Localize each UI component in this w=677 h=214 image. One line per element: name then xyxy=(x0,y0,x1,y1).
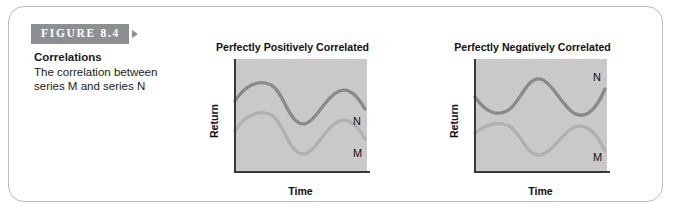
plot-background-positive xyxy=(235,59,367,173)
chart-title-positive: Perfectly Positively Correlated xyxy=(205,41,380,53)
chart-title-negative: Perfectly Negatively Correlated xyxy=(445,41,620,53)
x-axis-label-negative: Time xyxy=(473,185,608,197)
plot-svg-negative: N M xyxy=(473,59,613,181)
figure-banner-body: FIGURE 8.4 xyxy=(31,24,129,44)
figure-caption: Correlations The correlation between ser… xyxy=(34,50,184,93)
plot-area-negative: N M xyxy=(473,59,613,181)
caption-title: Correlations xyxy=(34,50,184,64)
series-tag-n-negative: N xyxy=(593,71,601,83)
plot-svg-positive: N M xyxy=(233,59,373,181)
caption-body: The correlation between series M and ser… xyxy=(34,65,184,93)
series-tag-n-positive: N xyxy=(353,115,361,127)
figure-number-label: FIGURE 8.4 xyxy=(41,28,120,40)
x-axis-label-positive: Time xyxy=(233,185,368,197)
chart-panel-negatively-correlated: Perfectly Negatively Correlated Return N… xyxy=(445,37,620,207)
banner-arrow-icon xyxy=(132,30,138,38)
series-tag-m-positive: M xyxy=(353,147,362,159)
plot-area-positive: N M xyxy=(233,59,373,181)
chart-panel-positively-correlated: Perfectly Positively Correlated Return N… xyxy=(205,37,380,207)
figure-banner: FIGURE 8.4 xyxy=(31,24,138,44)
y-axis-label-positive: Return xyxy=(208,104,220,138)
caption-line-1: The correlation between xyxy=(34,65,184,79)
caption-line-2: series M and series N xyxy=(34,79,184,93)
y-axis-label-negative: Return xyxy=(448,104,460,138)
series-tag-m-negative: M xyxy=(593,151,602,163)
figure-frame: FIGURE 8.4 Correlations The correlation … xyxy=(8,6,663,202)
